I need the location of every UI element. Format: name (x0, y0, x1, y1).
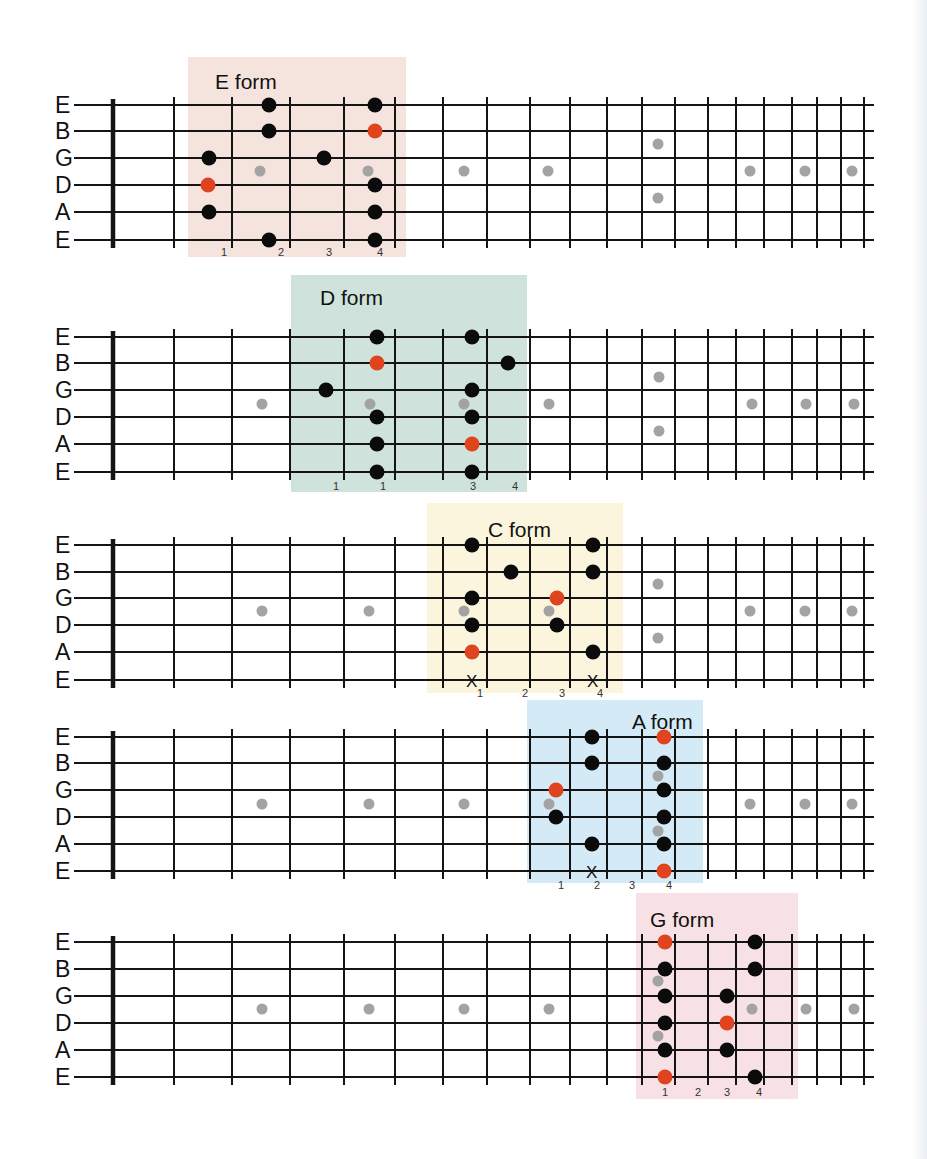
fret-inlay-marker (653, 139, 664, 150)
fret-inlay-marker (800, 166, 811, 177)
fret-inlay-marker (800, 606, 811, 617)
fret-inlay-marker (654, 372, 665, 383)
fret-inlay-marker (847, 799, 858, 810)
string-label: G (55, 983, 73, 1009)
scale-note-dot (368, 178, 383, 193)
fret-inlay-marker (255, 166, 266, 177)
fret-inlay-marker (543, 166, 554, 177)
scale-note-dot (370, 465, 385, 480)
string-label: B (55, 750, 70, 776)
string-label: D (55, 804, 72, 830)
fret-inlay-marker (544, 799, 555, 810)
finger-number: 2 (594, 879, 600, 891)
finger-number: 2 (522, 687, 528, 699)
finger-number: 3 (629, 879, 635, 891)
scale-note-dot (657, 783, 672, 798)
fret-inlay-marker (459, 799, 470, 810)
root-note-dot (658, 1070, 673, 1085)
g-form-diagram: G formEBGDAE1234 (55, 893, 874, 1099)
root-note-dot (549, 783, 564, 798)
scale-note-dot (748, 1070, 763, 1085)
scale-note-dot (720, 1043, 735, 1058)
scale-note-dot (748, 935, 763, 950)
scale-note-dot (549, 810, 564, 825)
finger-number: 2 (695, 1086, 701, 1098)
scale-note-dot (317, 151, 332, 166)
fret-inlay-marker (849, 399, 860, 410)
finger-number: 1 (380, 480, 386, 492)
scale-note-dot (658, 1043, 673, 1058)
fret-inlay-marker (653, 633, 664, 644)
scale-note-dot (501, 356, 516, 371)
fret-inlay-marker (257, 606, 268, 617)
finger-number: 3 (724, 1086, 730, 1098)
fret-inlay-marker (849, 1004, 860, 1015)
finger-number: 1 (477, 687, 483, 699)
string-label: E (55, 227, 70, 253)
string-label: B (55, 956, 70, 982)
finger-number: 3 (559, 687, 565, 699)
scale-note-dot (465, 383, 480, 398)
string-label: G (55, 777, 73, 803)
scale-note-dot (319, 383, 334, 398)
fret-inlay-marker (745, 606, 756, 617)
scale-note-dot (657, 756, 672, 771)
string-label: D (55, 172, 72, 198)
root-note-dot (465, 437, 480, 452)
scale-note-dot (465, 591, 480, 606)
finger-number: 4 (377, 246, 383, 258)
fret-inlay-marker (653, 771, 664, 782)
root-note-dot (368, 124, 383, 139)
fret-inlay-marker (459, 399, 470, 410)
string-label: E (55, 459, 70, 485)
root-note-dot (657, 864, 672, 879)
string-label: E (55, 1064, 70, 1090)
scale-note-dot (262, 98, 277, 113)
form-title: C form (488, 518, 551, 541)
scale-note-dot (370, 330, 385, 345)
form-title: E form (215, 70, 277, 93)
scale-note-dot (465, 330, 480, 345)
fret-inlay-marker (747, 399, 758, 410)
fret-inlay-marker (363, 166, 374, 177)
scale-note-dot (465, 410, 480, 425)
d-form-diagram: D formEBGDAE1134 (55, 275, 874, 492)
scale-note-dot (504, 565, 519, 580)
fret-inlay-marker (801, 399, 812, 410)
scale-note-dot (262, 233, 277, 248)
fret-inlay-marker (653, 1031, 664, 1042)
scale-note-dot (720, 989, 735, 1004)
fret-inlay-marker (654, 426, 665, 437)
string-label: G (55, 145, 73, 171)
finger-number: 4 (597, 687, 603, 699)
string-label: A (55, 431, 71, 457)
fret-inlay-marker (544, 1004, 555, 1015)
a-form-diagram: A formEBGDAEX1234 (55, 700, 874, 891)
string-label: D (55, 612, 72, 638)
scale-note-dot (202, 151, 217, 166)
fret-inlay-marker (257, 799, 268, 810)
string-label: B (55, 350, 70, 376)
finger-number: 1 (221, 246, 227, 258)
scale-note-dot (465, 538, 480, 553)
muted-string-x-icon: X (466, 672, 477, 691)
scale-note-dot (658, 1016, 673, 1031)
fret-inlay-marker (364, 1004, 375, 1015)
string-label: A (55, 639, 71, 665)
scale-note-dot (658, 989, 673, 1004)
fret-inlay-marker (365, 399, 376, 410)
fret-inlay-marker (847, 166, 858, 177)
scale-note-dot (550, 618, 565, 633)
fret-inlay-marker (801, 1004, 812, 1015)
string-label: G (55, 377, 73, 403)
fret-inlay-marker (459, 606, 470, 617)
scale-note-dot (585, 837, 600, 852)
scale-note-dot (368, 98, 383, 113)
scale-note-dot (465, 465, 480, 480)
form-title: D form (320, 286, 383, 309)
scale-note-dot (657, 810, 672, 825)
fret-inlay-marker (653, 976, 664, 987)
scale-note-dot (368, 205, 383, 220)
fret-inlay-marker (459, 166, 470, 177)
string-label: D (55, 1010, 72, 1036)
